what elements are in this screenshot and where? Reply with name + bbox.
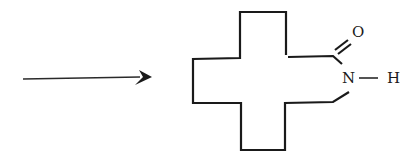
hydrogen-atom-label: H: [387, 69, 400, 87]
ring-carbonyl-bond: [288, 56, 342, 64]
reaction-arrow: [23, 70, 152, 85]
arrow-shaft: [23, 77, 140, 79]
macrocycle-ring: [193, 12, 349, 150]
nitrogen-atom-label: N: [342, 69, 355, 87]
oxygen-atom-label: O: [352, 23, 364, 41]
carbonyl-double-bond: [335, 40, 351, 54]
ring-upper-bonds: [193, 12, 349, 150]
reaction-diagram: O N H: [0, 0, 415, 161]
